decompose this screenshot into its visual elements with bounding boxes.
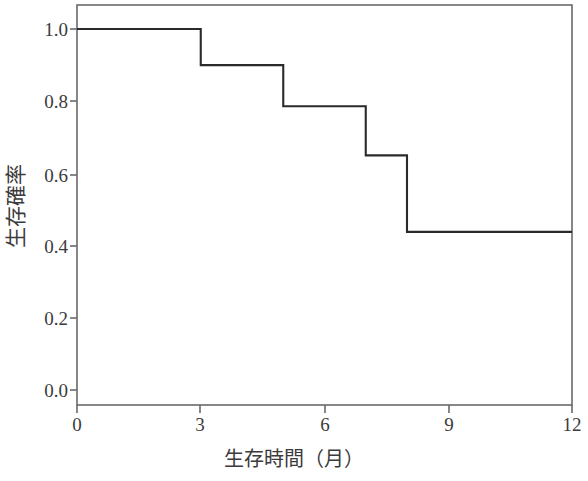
- x-tick-marks: [77, 405, 572, 413]
- plot-background: [77, 5, 572, 405]
- plot-area: [0, 0, 588, 481]
- survival-chart-figure: 生存確率 0.0 0.2 0.4 0.6 0.8 1.0 0 3 6 9 12 …: [0, 0, 588, 481]
- y-tick-marks: [70, 29, 77, 390]
